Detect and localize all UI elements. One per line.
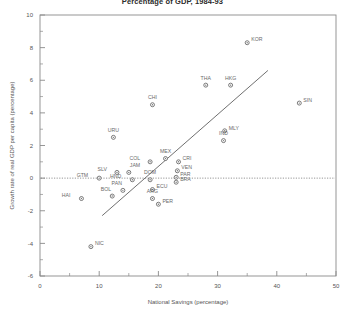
point-label: MEX	[160, 148, 172, 154]
point-marker-center	[149, 179, 150, 180]
y-axis-title: Growth rate of real GDP per capita (perc…	[9, 82, 15, 210]
data-point[interactable]: DOM	[144, 169, 156, 182]
data-point[interactable]: URU	[108, 127, 119, 140]
y-tick-label: 6	[30, 77, 34, 83]
data-point[interactable]: PER	[156, 198, 173, 207]
point-marker-center	[128, 172, 129, 173]
point-marker-center	[205, 84, 206, 85]
data-point[interactable]: HKG	[225, 75, 236, 88]
point-label: THA	[201, 75, 212, 81]
point-marker-center	[177, 170, 178, 171]
data-point[interactable]: HAI	[62, 192, 84, 201]
point-marker-center	[230, 84, 231, 85]
point-marker-center	[132, 179, 133, 180]
y-tick-label: -4	[28, 241, 34, 247]
point-label: JAM	[130, 162, 140, 168]
data-point[interactable]: JAM	[127, 162, 140, 175]
point-label: VEN	[181, 164, 192, 170]
data-point[interactable]: CHI	[148, 94, 157, 107]
y-tick-label: -6	[28, 273, 34, 279]
data-point[interactable]: NIC	[89, 240, 104, 249]
point-label: ARG	[147, 188, 158, 194]
point-label: PAN	[112, 180, 123, 186]
x-tick-label: 20	[155, 283, 162, 289]
y-tick-label: 8	[30, 45, 34, 51]
x-tick-label: 30	[214, 283, 221, 289]
point-label: CHI	[148, 94, 157, 100]
point-marker-center	[175, 177, 176, 178]
point-label: GTM	[77, 172, 89, 178]
data-point[interactable]: BOL	[101, 186, 114, 199]
point-marker-center	[112, 195, 113, 196]
point-label: ECU	[156, 183, 167, 189]
point-marker-center	[149, 161, 150, 162]
trend-line	[102, 70, 268, 215]
x-axis-title: National Savings (percentage)	[148, 299, 229, 305]
point-label: PER	[162, 198, 173, 204]
point-marker-center	[223, 140, 224, 141]
point-marker-center	[165, 158, 166, 159]
point-label: HAI	[62, 192, 71, 198]
x-tick-label: 0	[38, 283, 42, 289]
data-point[interactable]: SIN	[297, 97, 312, 106]
point-marker-center	[90, 246, 91, 247]
point-label: IND	[219, 130, 228, 136]
point-label: SLV	[98, 166, 108, 172]
data-point[interactable]: PAN	[112, 180, 125, 193]
data-point[interactable]: CRI	[177, 155, 192, 164]
data-point[interactable]: THA	[201, 75, 212, 88]
point-label: BRA	[180, 176, 191, 182]
point-marker-center	[175, 182, 176, 183]
scatter-chart: Percentage of GDP, 1984-93 -6-4-20246810…	[0, 0, 345, 313]
x-tick-label: 10	[96, 283, 103, 289]
data-point[interactable]: ARG	[147, 188, 158, 201]
data-point[interactable]: KOR	[245, 36, 262, 45]
point-label: URU	[108, 127, 119, 133]
y-tick-label: 2	[30, 143, 34, 149]
y-tick-label: 0	[30, 175, 34, 181]
point-label: SIN	[303, 97, 312, 103]
x-tick-label: 50	[333, 283, 340, 289]
point-marker-center	[152, 104, 153, 105]
point-label: BOL	[101, 186, 111, 192]
point-label: KOR	[251, 36, 262, 42]
point-label: CRI	[183, 155, 192, 161]
y-tick-label: 10	[26, 12, 33, 18]
plot-canvas: -6-4-2024681001020304050KORTHAHKGSINCHIM…	[0, 0, 345, 313]
point-marker-center	[81, 198, 82, 199]
data-point[interactable]: MEX	[160, 148, 172, 161]
data-point[interactable]: IND	[219, 130, 228, 143]
point-label: HND	[110, 173, 121, 179]
y-tick-label: 4	[30, 110, 34, 116]
point-marker-center	[247, 42, 248, 43]
y-tick-label: -2	[28, 208, 34, 214]
point-marker-center	[113, 137, 114, 138]
point-label: HKG	[225, 75, 236, 81]
point-marker-center	[99, 177, 100, 178]
point-marker-center	[122, 190, 123, 191]
point-marker-center	[299, 102, 300, 103]
point-label: DOM	[144, 169, 156, 175]
point-label: NIC	[95, 240, 104, 246]
data-point[interactable]: GTM	[77, 172, 102, 181]
point-marker-center	[178, 161, 179, 162]
point-label: COL	[129, 155, 140, 161]
x-tick-label: 40	[273, 283, 280, 289]
point-label: MLY	[229, 125, 240, 131]
point-marker-center	[158, 204, 159, 205]
plot-frame	[40, 15, 336, 276]
point-marker-center	[152, 198, 153, 199]
